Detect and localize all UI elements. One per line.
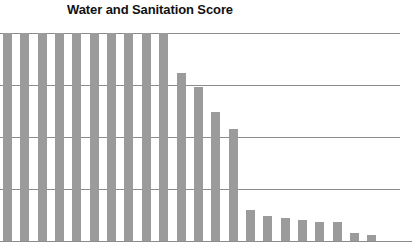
bar [177,73,186,241]
bar [281,218,290,241]
bar [298,220,307,241]
bar [211,112,220,241]
bar [229,129,238,241]
bar [333,222,342,241]
bar [194,87,203,241]
bar [263,216,272,241]
bar [55,33,64,241]
bar [107,33,116,241]
bar [315,222,324,241]
plot-area [0,0,412,250]
bar [159,33,168,241]
bar [142,33,151,241]
bar [3,33,12,241]
bar [246,210,255,241]
bar [72,33,81,241]
bar [124,33,133,241]
bar [350,233,359,241]
bar [367,235,376,241]
bar [20,33,29,241]
bar [38,33,47,241]
axis-line [0,241,412,242]
bar-series [0,0,412,241]
chart-container: Water and Sanitation Score [0,0,412,250]
bar [90,33,99,241]
